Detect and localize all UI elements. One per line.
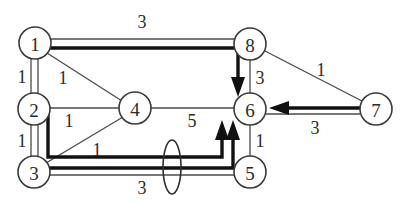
edge-weight-1-8: 3 xyxy=(138,12,147,32)
edge-weight-2-4: 1 xyxy=(65,111,74,131)
edge-weight-1-2: 1 xyxy=(18,67,27,87)
node-6[interactable]: 6 xyxy=(234,93,266,125)
node-4-label: 4 xyxy=(130,99,140,120)
node-2[interactable]: 2 xyxy=(18,93,50,125)
edge-weight-3-5: 3 xyxy=(138,178,147,198)
node-5[interactable]: 5 xyxy=(234,156,266,188)
node-8-label: 8 xyxy=(245,35,255,56)
flow-path-1-8-6 xyxy=(49,48,238,84)
node-5-label: 5 xyxy=(245,163,255,184)
edge-weight-4-6: 5 xyxy=(188,111,197,131)
node-1-label: 1 xyxy=(30,34,40,55)
graph-figure: 1 2 3 4 5 6 7 xyxy=(0,0,407,206)
node-4[interactable]: 4 xyxy=(119,92,151,124)
node-7-label: 7 xyxy=(371,100,381,121)
edge-weight-8-6: 3 xyxy=(256,68,265,88)
edge-weight-1-4: 1 xyxy=(59,68,68,88)
node-1[interactable]: 1 xyxy=(19,27,51,59)
edge-weight-6-7: 3 xyxy=(311,118,320,138)
node-6-label: 6 xyxy=(245,100,255,121)
edge-weight-2-3: 1 xyxy=(18,131,27,151)
edge-8-7-thin xyxy=(265,51,362,101)
edge-weight-6-5: 1 xyxy=(256,131,265,151)
graph-canvas: 1 2 3 4 5 6 7 xyxy=(0,0,407,206)
node-2-label: 2 xyxy=(29,100,39,121)
node-8[interactable]: 8 xyxy=(234,28,266,60)
arrow-head-into-6-left xyxy=(215,120,229,140)
edge-weight-8-7: 1 xyxy=(317,60,326,80)
arrow-head-into-6-from-7 xyxy=(269,101,289,115)
node-3[interactable]: 3 xyxy=(18,156,50,188)
flow-path-3-5-6 xyxy=(48,134,233,168)
arrow-head-into-6-right xyxy=(226,120,240,140)
node-3-label: 3 xyxy=(29,163,39,184)
edge-weight-3-4: 1 xyxy=(93,140,102,160)
node-7[interactable]: 7 xyxy=(360,93,392,125)
